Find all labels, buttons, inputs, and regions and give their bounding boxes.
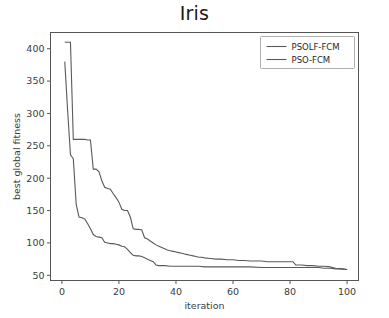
- y-tick-label: 50: [32, 270, 44, 281]
- y-tick-label: 250: [26, 140, 44, 151]
- y-tick-label: 400: [26, 43, 44, 54]
- x-tick-label: 100: [338, 286, 356, 297]
- series-group: [65, 42, 347, 269]
- x-tick-label: 0: [59, 286, 65, 297]
- x-tick-label: 60: [227, 286, 239, 297]
- axes-group: 02040608010050100150200250300350400itera…: [11, 33, 359, 311]
- series-line-0: [65, 42, 347, 269]
- y-axis-title: best global fitness: [11, 113, 22, 200]
- series-line-1: [65, 62, 347, 270]
- y-tick-label: 350: [26, 75, 44, 86]
- legend-label-1: PSO-FCM: [292, 55, 331, 65]
- y-tick-label: 150: [26, 205, 44, 216]
- legend-label-0: PSOLF-FCM: [292, 42, 340, 52]
- line-chart: 02040608010050100150200250300350400itera…: [0, 0, 389, 318]
- y-tick-label: 200: [26, 173, 44, 184]
- figure-canvas: Iris 02040608010050100150200250300350400…: [0, 0, 389, 318]
- x-axis-title: iteration: [184, 300, 224, 311]
- x-tick-label: 80: [284, 286, 296, 297]
- x-tick-label: 20: [113, 286, 125, 297]
- x-tick-label: 40: [170, 286, 182, 297]
- plot-frame: [51, 33, 359, 281]
- legend-group: PSOLF-FCMPSO-FCM: [261, 37, 355, 69]
- y-tick-label: 300: [26, 108, 44, 119]
- y-tick-label: 100: [26, 237, 44, 248]
